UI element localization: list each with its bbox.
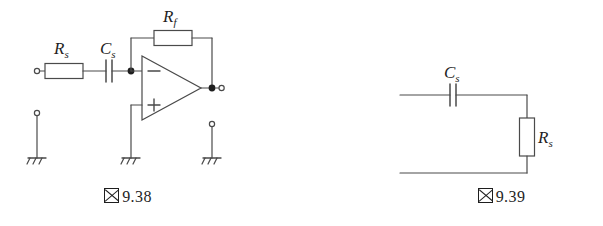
label-capacitor-cs: Cs <box>100 39 116 60</box>
figure-9-39: Cs Rs 9.39 <box>380 0 603 226</box>
input-terminal-circle <box>34 68 39 73</box>
resistor-rs-body <box>520 118 535 156</box>
figure-sheet: Rs Cs Rf 9.38 <box>0 0 603 226</box>
input-reference-terminal-circle <box>34 110 39 115</box>
caption-figure-9-38: 9.38 <box>0 188 278 206</box>
circuit-diagram-opamp: Rs Cs Rf <box>0 0 300 190</box>
ground-symbol-output <box>202 158 221 164</box>
output-terminal-circle <box>219 85 224 90</box>
ground-symbol-input <box>27 158 46 164</box>
label-capacitor-cs: Cs <box>444 63 460 84</box>
resistor-rs-body <box>45 64 83 79</box>
caption-kanji-icon <box>104 188 119 203</box>
caption-figure-9-39: 9.39 <box>390 188 603 206</box>
label-resistor-rs: Rs <box>53 39 69 60</box>
junction-dot-output-node <box>209 85 216 92</box>
label-resistor-rf: Rf <box>162 7 178 28</box>
opamp-triangle-body <box>142 56 201 120</box>
figure-9-38: Rs Cs Rf 9.38 <box>0 0 300 226</box>
caption-number: 9.39 <box>496 188 526 205</box>
resistor-rf-body <box>154 31 192 46</box>
label-resistor-rs: Rs <box>537 128 553 149</box>
caption-kanji-icon <box>478 188 493 203</box>
caption-number: 9.38 <box>122 188 152 205</box>
output-reference-terminal-circle <box>209 121 214 126</box>
circuit-diagram-rc-network: Cs Rs <box>380 0 603 190</box>
ground-symbol-noninverting <box>121 158 140 164</box>
